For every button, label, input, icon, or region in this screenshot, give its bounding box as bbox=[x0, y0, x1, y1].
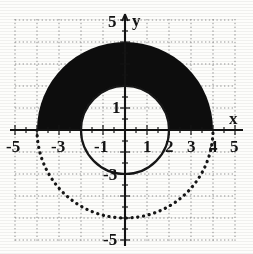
x-tick-label-3: 3 bbox=[187, 138, 196, 155]
y-axis-label: y bbox=[132, 12, 141, 29]
y-tick-label-5: 5 bbox=[108, 13, 117, 30]
coordinate-plane-svg bbox=[0, 0, 253, 254]
x-tick-label-5: 5 bbox=[230, 138, 239, 155]
y-tick-label-1: 1 bbox=[112, 99, 121, 116]
x-tick-label--5: -5 bbox=[6, 138, 20, 155]
x-tick-label-1: 1 bbox=[143, 138, 152, 155]
x-tick-label--1: -1 bbox=[94, 138, 108, 155]
y-tick-label--3: -3 bbox=[103, 166, 117, 183]
x-tick-label-4: 4 bbox=[209, 138, 218, 155]
x-tick-label--3: -3 bbox=[51, 138, 65, 155]
x-tick-label-2: 2 bbox=[165, 138, 174, 155]
x-axis-label: x bbox=[229, 110, 238, 127]
y-tick-label--5: -5 bbox=[103, 231, 117, 248]
graph-figure: -5 -3 -1 1 2 3 4 5 5 1 -3 -5 y x bbox=[0, 0, 253, 254]
